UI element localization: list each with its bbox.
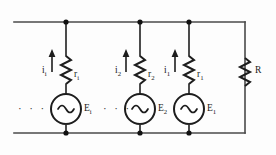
node-dot-top-2 (137, 19, 142, 24)
node-dot-top-1 (186, 19, 191, 24)
resistor-label-ri: ri (74, 70, 79, 82)
node-dot-bottom-2 (137, 130, 142, 135)
resistor-ri (61, 56, 71, 84)
current-arrow-i1-head (172, 49, 179, 57)
source-label-E2: E2 (158, 104, 167, 116)
current-label-ii: ii (42, 66, 47, 78)
resistor-label-r2: r2 (148, 70, 155, 82)
ellipsis-left: · · · (18, 103, 47, 114)
current-label-i2: i2 (115, 66, 121, 78)
resistor-r2 (135, 56, 145, 84)
resistor-label-r1: r1 (197, 70, 204, 82)
source-label-E1: E1 (207, 104, 216, 116)
current-arrow-i2-head (123, 49, 130, 57)
node-dot-bottom-i (63, 130, 68, 135)
current-arrow-ii-head (49, 49, 56, 57)
current-label-i1: i1 (164, 66, 170, 78)
load-resistor-label-R: R (255, 66, 261, 76)
node-dot-top-i (63, 19, 68, 24)
resistor-r1 (184, 56, 194, 84)
ellipsis-mid: · · · (103, 103, 132, 114)
node-dot-bottom-1 (186, 130, 191, 135)
circuit-diagram: ii ri Ei i2 r2 E2 i1 r1 E1 R · · · · · · (0, 0, 276, 155)
source-label-Ei: Ei (84, 104, 92, 116)
